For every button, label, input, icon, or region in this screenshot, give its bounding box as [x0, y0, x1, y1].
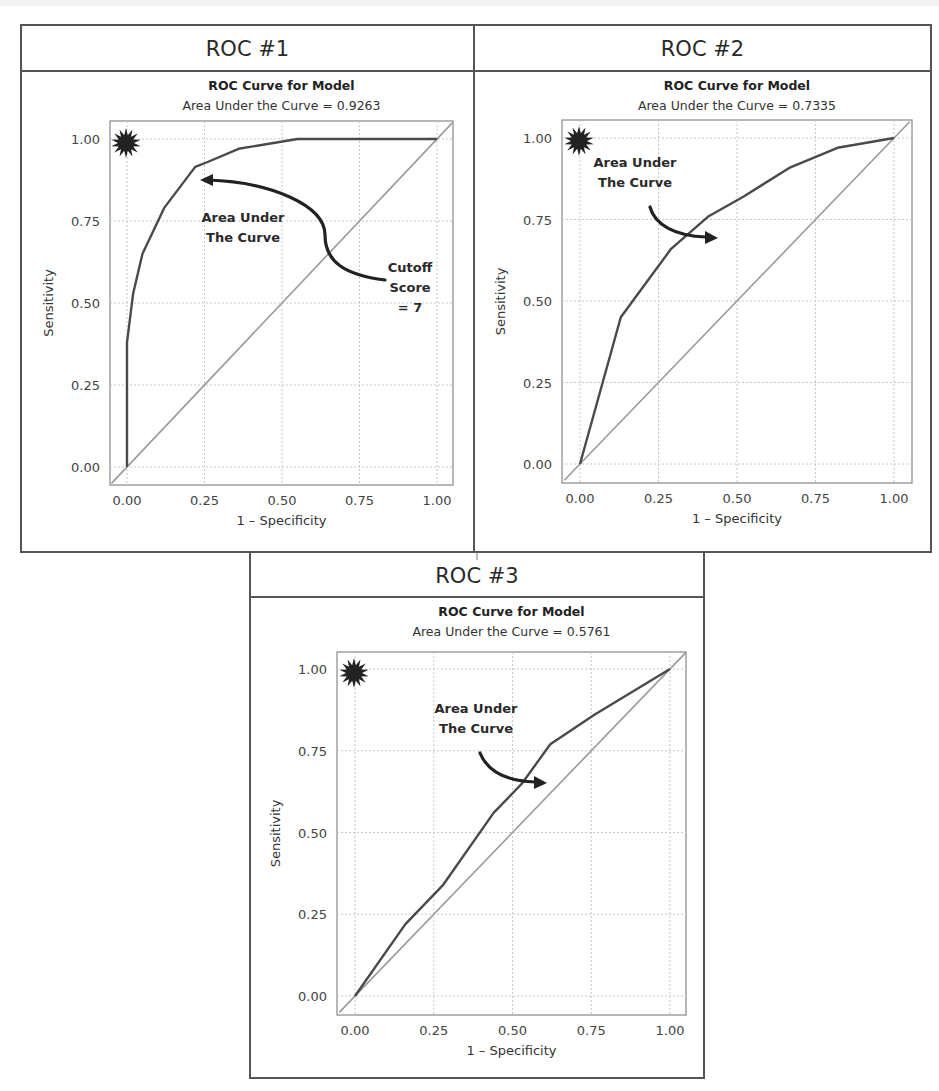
roc-panel-2: ROC #2ROC Curve for ModelArea Under the …	[474, 25, 931, 552]
x-axis-label: 1 – Specificity	[466, 1043, 556, 1058]
y-tick-label: 0.50	[71, 296, 100, 311]
x-tick-label: 0.50	[268, 493, 297, 508]
annotation-text: The Curve	[598, 175, 672, 190]
roc-panel-1: ROC #1ROC Curve for ModelArea Under the …	[21, 25, 474, 552]
x-tick-label: 0.50	[498, 1023, 527, 1038]
y-tick-label: 1.00	[71, 132, 100, 147]
top-strip	[0, 0, 939, 6]
x-axis-label: 1 – Specificity	[692, 511, 782, 526]
chart-title: ROC Curve for Model	[664, 78, 810, 93]
annotation-text: The Curve	[439, 721, 513, 736]
auc-subtitle: Area Under the Curve = 0.7335	[638, 98, 836, 113]
panel-header: ROC #3	[435, 564, 518, 588]
annotation-text: The Curve	[206, 230, 280, 245]
starburst-icon	[339, 658, 368, 688]
x-tick-label: 0.75	[577, 1023, 606, 1038]
panel-header: ROC #2	[661, 37, 744, 61]
arrowhead-icon	[705, 231, 718, 244]
roc-figure: ROC #1ROC Curve for ModelArea Under the …	[0, 0, 939, 1091]
annotation-text: = 7	[398, 300, 422, 315]
x-tick-label: 0.00	[341, 1023, 370, 1038]
auc-subtitle: Area Under the Curve = 0.9263	[182, 98, 380, 113]
x-axis-label: 1 – Specificity	[236, 513, 326, 528]
arrowhead-icon	[200, 174, 213, 186]
x-tick-label: 0.75	[345, 493, 374, 508]
y-tick-label: 0.50	[523, 294, 552, 309]
auc-subtitle: Area Under the Curve = 0.5761	[412, 624, 610, 639]
y-tick-label: 0.25	[523, 376, 552, 391]
x-tick-label: 1.00	[423, 493, 452, 508]
arrowhead-icon	[534, 776, 547, 789]
y-tick-label: 0.75	[298, 744, 327, 759]
y-tick-label: 0.75	[523, 213, 552, 228]
starburst-icon	[111, 128, 140, 158]
annotation-text: Cutoff	[388, 260, 433, 275]
y-tick-label: 0.00	[298, 989, 327, 1004]
x-tick-label: 0.50	[723, 491, 752, 506]
annotation-text: Score	[389, 280, 430, 295]
panel-header: ROC #1	[206, 37, 289, 61]
x-tick-label: 0.00	[113, 493, 142, 508]
y-axis-label: Sensitivity	[268, 799, 283, 867]
y-tick-label: 0.00	[523, 457, 552, 472]
y-tick-label: 0.25	[298, 907, 327, 922]
annotation-text: Area Under	[202, 210, 286, 225]
y-axis-label: Sensitivity	[41, 269, 56, 337]
x-tick-label: 0.00	[566, 491, 595, 506]
x-tick-label: 0.25	[190, 493, 219, 508]
annotation-text: Area Under	[435, 701, 519, 716]
x-tick-label: 0.25	[419, 1023, 448, 1038]
y-tick-label: 1.00	[523, 131, 552, 146]
annotation-text: Area Under	[594, 155, 678, 170]
y-tick-label: 1.00	[298, 662, 327, 677]
y-tick-label: 0.00	[71, 460, 100, 475]
y-tick-label: 0.25	[71, 378, 100, 393]
x-tick-label: 0.75	[801, 491, 830, 506]
x-tick-label: 1.00	[656, 1023, 685, 1038]
y-axis-label: Sensitivity	[493, 267, 508, 335]
roc-panel-3: ROC #3ROC Curve for ModelArea Under the …	[250, 552, 704, 1078]
x-tick-label: 1.00	[880, 491, 909, 506]
chart-title: ROC Curve for Model	[438, 604, 584, 619]
y-tick-label: 0.75	[71, 214, 100, 229]
starburst-icon	[564, 126, 593, 156]
x-tick-label: 0.25	[644, 491, 673, 506]
chart-title: ROC Curve for Model	[208, 78, 354, 93]
y-tick-label: 0.50	[298, 826, 327, 841]
